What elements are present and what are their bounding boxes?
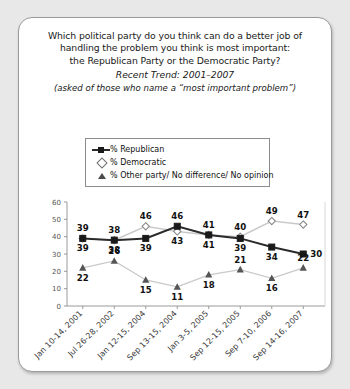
marker-diamond [300, 221, 307, 228]
marker-square [111, 237, 117, 243]
title-line-1: Which political party do you think can d… [29, 30, 321, 42]
data-label: 39 [234, 243, 246, 253]
data-label: 41 [203, 220, 215, 230]
title-line-3: the Republican Party or the Democratic P… [29, 55, 321, 67]
legend-label-republican: % Republican [110, 145, 164, 154]
marker-square [143, 235, 149, 241]
data-label: 40 [234, 222, 246, 232]
data-label: 34 [266, 252, 278, 262]
y-tick-label: 20 [52, 268, 61, 276]
data-label: 39 [77, 223, 89, 233]
data-label: 46 [171, 211, 183, 221]
legend-item-republican: % Republican [92, 143, 263, 156]
chart-subtitle: Recent Trend: 2001–2007 [29, 68, 321, 81]
data-label: 43 [171, 236, 183, 246]
data-label: 39 [140, 243, 152, 253]
title-block: Which political party do you think can d… [19, 18, 331, 95]
data-label: 49 [266, 206, 278, 216]
data-label: 39 [77, 243, 89, 253]
y-tick-label: 30 [52, 251, 61, 259]
plot-area: 0102030405060393839464139343039384643414… [19, 196, 332, 372]
data-label: 30 [310, 249, 322, 259]
marker-square [80, 235, 86, 241]
filled-triangle-icon [92, 170, 110, 181]
data-label: 21 [234, 255, 246, 265]
filled-square-icon [92, 144, 110, 155]
legend-item-democratic: % Democratic [92, 156, 263, 169]
y-tick-label: 0 [57, 303, 61, 311]
legend-item-other: % Other party/ No difference/ No opinion [92, 169, 263, 182]
data-label: 22 [77, 273, 89, 283]
marker-diamond [142, 223, 149, 230]
title-line-2: handling the problem you think is most i… [29, 42, 321, 54]
y-tick-label: 60 [52, 199, 61, 207]
marker-triangle [300, 264, 307, 271]
data-label: 47 [297, 210, 309, 220]
y-tick-label: 40 [52, 233, 61, 241]
legend-label-other: % Other party/ No difference/ No opinion [110, 171, 273, 180]
marker-triangle [142, 276, 149, 283]
marker-square [269, 244, 275, 250]
legend-label-democratic: % Democratic [110, 158, 166, 167]
data-label: 46 [140, 211, 152, 221]
data-label: 15 [140, 285, 152, 295]
data-label: 38 [108, 225, 120, 235]
data-label: 41 [203, 240, 215, 250]
data-label: 22 [297, 253, 309, 263]
y-tick-label: 50 [52, 216, 61, 224]
marker-square [206, 232, 212, 238]
chart-note: (asked of those who name a “most importa… [29, 82, 321, 95]
data-label: 11 [171, 292, 183, 302]
y-tick-label: 10 [52, 285, 61, 293]
data-label: 18 [203, 280, 215, 290]
marker-square [174, 223, 180, 229]
open-diamond-icon [92, 157, 110, 168]
marker-diamond [268, 217, 275, 224]
marker-square [237, 235, 243, 241]
line-chart: 0102030405060393839464139343039384643414… [19, 196, 332, 372]
chart-legend: % Republican % Democratic % Other party/… [85, 138, 270, 187]
chart-card: Which political party do you think can d… [18, 17, 332, 372]
data-label: 16 [266, 283, 278, 293]
marker-triangle [111, 257, 118, 264]
data-label: 26 [108, 246, 120, 256]
marker-triangle [237, 266, 244, 273]
